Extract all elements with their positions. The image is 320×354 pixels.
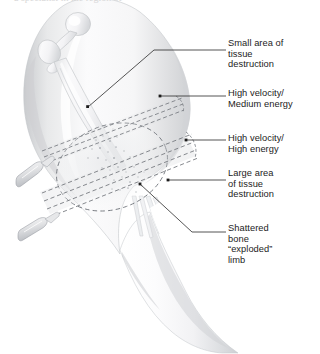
dot-shattered-bone xyxy=(139,183,142,186)
label-large-area-tissue-destruction: Large area of tissue destruction xyxy=(228,168,274,200)
label-small-area-tissue-destruction: Small area of tissue destruction xyxy=(228,38,283,70)
femoral-head-highlight xyxy=(69,16,81,26)
label-shattered-bone-exploded-limb: Shattered bone “exploded” limb xyxy=(228,223,272,265)
cropped-caption-remnant: a specialist in the region of xyxy=(0,0,210,7)
label-high-velocity-high-energy: High velocity/ High energy xyxy=(228,133,284,154)
cropped-caption-text: a specialist in the region of xyxy=(14,0,210,3)
dot-large-area xyxy=(167,179,170,182)
dot-high-velocity-medium xyxy=(159,95,162,98)
label-high-velocity-medium-energy: High velocity/ Medium energy xyxy=(228,88,293,109)
dot-high-velocity-high xyxy=(185,139,188,142)
dot-small-area xyxy=(86,105,89,108)
